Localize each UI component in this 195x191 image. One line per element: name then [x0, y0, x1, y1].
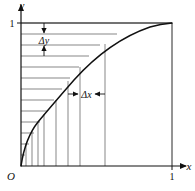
y-tick-label-1: 1	[10, 18, 15, 29]
math-figure: Δy Δx y x O 1 1	[0, 0, 195, 191]
x-axis-label: x	[186, 160, 192, 172]
x-tick-label-1: 1	[170, 171, 175, 182]
y-axis-label: y	[19, 0, 25, 11]
figure-container: Δy Δx y x O 1 1	[0, 0, 195, 191]
origin-label: O	[7, 170, 15, 182]
vertical-strip-lines	[26, 44, 105, 166]
delta-x-label: Δx	[80, 89, 92, 100]
axes-group	[21, 5, 186, 166]
delta-y-label: Δy	[38, 35, 50, 46]
